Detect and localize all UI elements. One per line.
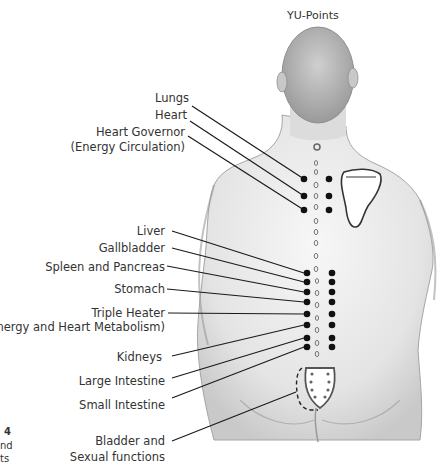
label-bladder: Bladder and xyxy=(95,434,165,448)
label-heart-governor: Heart Governor xyxy=(96,125,185,139)
diagram-title: YU-Points xyxy=(287,9,339,22)
label-small-intestine: Small Intestine xyxy=(79,398,165,412)
caption-fragment-2: ts xyxy=(0,453,9,464)
label-kidneys: Kidneys xyxy=(117,350,162,364)
label-bladder-sub: Sexual functions xyxy=(70,450,165,464)
label-triple-heater: Triple Heater xyxy=(91,306,165,320)
label-stomach: Stomach xyxy=(114,282,165,296)
label-large-intestine: Large Intestine xyxy=(79,374,165,388)
label-heart-governor-sub: (Energy Circulation) xyxy=(71,140,185,154)
label-triple-heater-sub: (Energy and Heart Metabolism) xyxy=(0,320,165,334)
label-spleen-pancreas: Spleen and Pancreas xyxy=(45,260,165,274)
head-sketch xyxy=(282,27,354,123)
caption-fragment-1: nd xyxy=(0,440,13,451)
body-illustration xyxy=(0,0,440,464)
label-gallbladder: Gallbladder xyxy=(99,241,165,255)
figure-number-fragment: 4 xyxy=(4,426,11,437)
label-liver: Liver xyxy=(137,224,165,238)
label-heart: Heart xyxy=(155,108,187,122)
label-lungs: Lungs xyxy=(155,91,189,105)
